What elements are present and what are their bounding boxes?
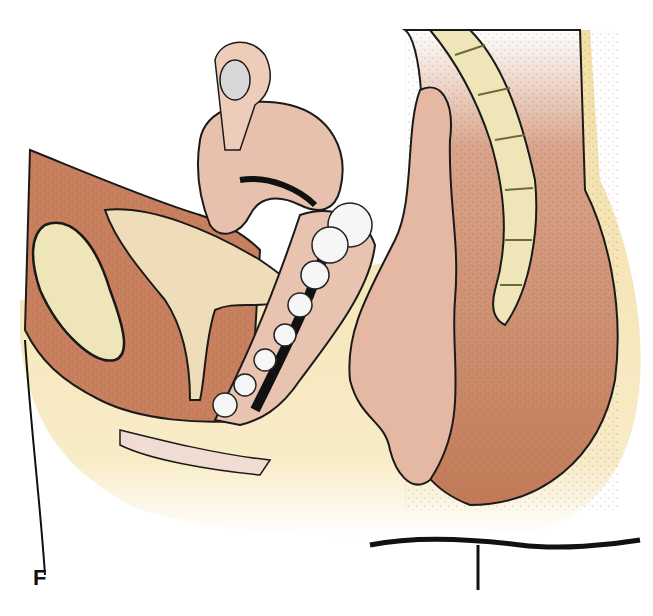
buttock-line xyxy=(370,539,640,547)
pelvis-illustration xyxy=(0,0,653,616)
panel-label: F xyxy=(33,565,46,591)
ovary xyxy=(220,60,250,100)
